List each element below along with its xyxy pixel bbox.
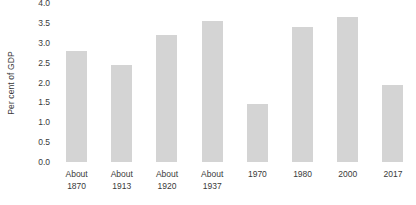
bar-slot bbox=[235, 3, 280, 162]
x-axis-tick-label: 2017 bbox=[370, 169, 415, 181]
bar-chart: Per cent of GDP 0.00.51.01.52.02.53.03.5… bbox=[0, 0, 416, 205]
y-axis-title: Per cent of GDP bbox=[0, 0, 22, 165]
bar[interactable] bbox=[111, 65, 132, 162]
bar[interactable] bbox=[202, 21, 223, 162]
bar-slot bbox=[54, 3, 99, 162]
x-axis-tick-label-line1: 2017 bbox=[384, 169, 403, 179]
x-axis-tick-label: 2000 bbox=[325, 169, 370, 181]
x-axis-tick-label: About1920 bbox=[144, 169, 189, 192]
bar-slot bbox=[144, 3, 189, 162]
y-axis-tick-label: 2.0 bbox=[38, 78, 50, 88]
y-axis-tick-label: 2.5 bbox=[38, 58, 50, 68]
x-axis-tick-label: 1980 bbox=[280, 169, 325, 181]
x-axis-tick-label-line2: 1913 bbox=[99, 181, 144, 193]
bar-slot bbox=[190, 3, 235, 162]
x-axis-tick-label-line1: About bbox=[111, 169, 133, 179]
y-axis-title-text: Per cent of GDP bbox=[6, 51, 16, 114]
y-axis-tick-label: 4.0 bbox=[38, 0, 50, 8]
x-axis-tick-label: 1970 bbox=[235, 169, 280, 181]
bar[interactable] bbox=[382, 85, 403, 163]
x-axis-tick-label-line2: 1920 bbox=[144, 181, 189, 193]
x-axis-tick-labels: About1870About1913About1920About19371970… bbox=[54, 165, 416, 205]
bar[interactable] bbox=[337, 17, 358, 162]
y-axis-tick-label: 0.0 bbox=[38, 157, 50, 167]
plot-area bbox=[54, 0, 416, 165]
bar-slot bbox=[280, 3, 325, 162]
bar-slot bbox=[370, 3, 415, 162]
y-axis-tick-label: 1.5 bbox=[38, 97, 50, 107]
y-axis-tick-label: 3.0 bbox=[38, 38, 50, 48]
y-axis-tick-labels: 0.00.51.01.52.02.53.03.54.0 bbox=[22, 0, 54, 165]
x-axis-tick-label: About1870 bbox=[54, 169, 99, 192]
y-axis-tick-label: 0.5 bbox=[38, 137, 50, 147]
bar-slot bbox=[99, 3, 144, 162]
x-axis-tick-label-line2: 1937 bbox=[190, 181, 235, 193]
x-axis-tick-label: About1937 bbox=[190, 169, 235, 192]
bar[interactable] bbox=[66, 51, 87, 162]
y-axis-tick-label: 3.5 bbox=[38, 18, 50, 28]
bar-slot bbox=[325, 3, 370, 162]
x-axis-tick-label-line1: 1970 bbox=[248, 169, 267, 179]
bar[interactable] bbox=[292, 27, 313, 162]
bar[interactable] bbox=[247, 104, 268, 162]
x-axis-tick-label-line1: 1980 bbox=[293, 169, 312, 179]
x-axis-tick-label-line1: About bbox=[201, 169, 223, 179]
bar[interactable] bbox=[156, 35, 177, 162]
x-axis-tick-label-line1: 2000 bbox=[338, 169, 357, 179]
y-axis-tick-label: 1.0 bbox=[38, 117, 50, 127]
x-axis-tick-label-line2: 1870 bbox=[54, 181, 99, 193]
x-axis-tick-label: About1913 bbox=[99, 169, 144, 192]
x-axis-tick-label-line1: About bbox=[65, 169, 87, 179]
x-axis-tick-label-line1: About bbox=[156, 169, 178, 179]
